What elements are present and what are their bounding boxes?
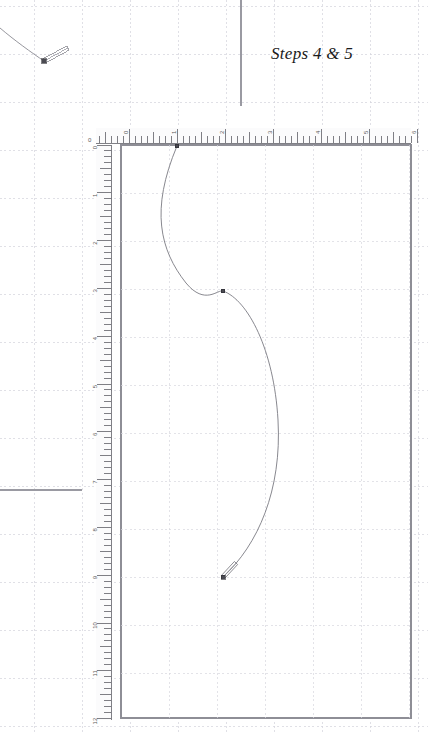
- vruler-label-10: 10: [92, 622, 98, 629]
- drawing-stage[interactable]: 0123456 0 0123456789101112 Steps 4 & 5: [0, 0, 428, 732]
- node-end[interactable]: [221, 575, 225, 579]
- drawing-canvas[interactable]: [121, 145, 411, 718]
- node-start[interactable]: [175, 144, 178, 147]
- vruler-label-12: 12: [92, 717, 98, 724]
- steps-label: Steps 4 & 5: [271, 44, 353, 64]
- node-mid[interactable]: [221, 289, 224, 292]
- vruler-label-11: 11: [92, 670, 98, 677]
- fragment-node[interactable]: [42, 59, 46, 63]
- scene-svg: 0123456 0 0123456789101112: [0, 0, 428, 732]
- horizontal-ruler[interactable]: 0123456 0: [88, 128, 417, 143]
